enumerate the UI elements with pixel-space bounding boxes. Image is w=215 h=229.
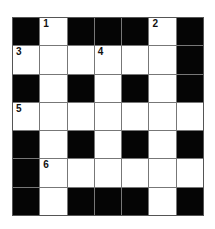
crossword-cell[interactable]: 3 xyxy=(13,46,39,73)
crossword-cell[interactable] xyxy=(95,131,121,158)
black-square xyxy=(122,188,148,215)
crossword-cell[interactable] xyxy=(149,46,175,73)
crossword-cell[interactable] xyxy=(95,103,121,130)
black-square xyxy=(177,18,203,45)
crossword-cell[interactable] xyxy=(68,159,94,186)
black-square xyxy=(177,75,203,102)
crossword-cell[interactable] xyxy=(40,131,66,158)
crossword-cell[interactable]: 2 xyxy=(149,18,175,45)
crossword-cell[interactable] xyxy=(40,75,66,102)
crossword-cell[interactable] xyxy=(40,103,66,130)
clue-number: 1 xyxy=(43,19,49,29)
black-square xyxy=(122,18,148,45)
crossword-cell[interactable] xyxy=(149,131,175,158)
black-square xyxy=(68,131,94,158)
black-square xyxy=(95,188,121,215)
crossword-cell[interactable] xyxy=(149,103,175,130)
crossword-cell[interactable] xyxy=(68,103,94,130)
crossword-cell[interactable] xyxy=(68,46,94,73)
black-square xyxy=(68,188,94,215)
black-square xyxy=(122,75,148,102)
crossword-cell[interactable] xyxy=(177,159,203,186)
crossword-cell[interactable] xyxy=(149,75,175,102)
black-square xyxy=(68,75,94,102)
black-square xyxy=(177,188,203,215)
crossword-cell[interactable] xyxy=(122,159,148,186)
crossword-cell[interactable] xyxy=(95,75,121,102)
crossword-cell[interactable]: 6 xyxy=(40,159,66,186)
black-square xyxy=(13,18,39,45)
crossword-grid: 123456 xyxy=(12,17,204,216)
black-square xyxy=(13,75,39,102)
crossword-cell[interactable]: 5 xyxy=(13,103,39,130)
black-square xyxy=(13,159,39,186)
crossword-cell[interactable]: 1 xyxy=(40,18,66,45)
black-square xyxy=(122,131,148,158)
black-square xyxy=(68,18,94,45)
clue-number: 2 xyxy=(152,19,158,29)
black-square xyxy=(177,46,203,73)
crossword-cell[interactable] xyxy=(40,46,66,73)
crossword-cell[interactable] xyxy=(40,188,66,215)
crossword-cell[interactable] xyxy=(149,188,175,215)
black-square xyxy=(13,131,39,158)
crossword-cell[interactable] xyxy=(95,159,121,186)
crossword-cell[interactable] xyxy=(122,46,148,73)
crossword-cell[interactable]: 4 xyxy=(95,46,121,73)
clue-number: 5 xyxy=(16,104,22,114)
black-square xyxy=(13,188,39,215)
crossword-cell[interactable] xyxy=(177,103,203,130)
crossword-cell[interactable] xyxy=(149,159,175,186)
black-square xyxy=(95,18,121,45)
clue-number: 4 xyxy=(98,47,104,57)
clue-number: 3 xyxy=(16,47,22,57)
crossword-cell[interactable] xyxy=(122,103,148,130)
clue-number: 6 xyxy=(43,160,49,170)
black-square xyxy=(177,131,203,158)
